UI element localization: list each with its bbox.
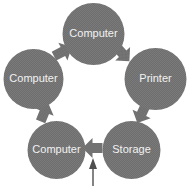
cycle-diagram: Computer Printer Storage Computer Comput… <box>0 0 187 186</box>
diagram-canvas: Computer Printer Storage Computer Comput… <box>0 0 187 186</box>
node-right-label: Printer <box>139 72 172 84</box>
node-left: Computer <box>4 49 64 109</box>
node-bottom-right-label: Storage <box>112 143 151 155</box>
node-bottom-right: Storage <box>103 121 161 179</box>
arrow-storage-to-computer <box>83 138 103 158</box>
node-bottom-left-label: Computer <box>32 143 81 155</box>
node-top: Computer <box>63 3 125 65</box>
input-arrow <box>89 158 97 186</box>
input-arrow-head <box>89 158 97 169</box>
node-bottom-left: Computer <box>28 121 86 179</box>
node-top-label: Computer <box>69 27 118 39</box>
node-left-label: Computer <box>9 72 58 84</box>
node-right: Printer <box>125 48 187 110</box>
